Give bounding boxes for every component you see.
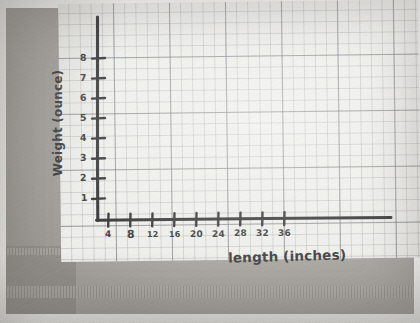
- y-tick-label-7: 7: [80, 72, 87, 83]
- y-tick-label-1: 1: [81, 192, 88, 203]
- y-axis-title: Weight (ounce): [51, 57, 65, 189]
- y-tick-label-2: 2: [80, 172, 87, 183]
- y-axis-title-wrapper: Weight (ounce): [48, 60, 70, 192]
- x-tick-label-12: 12: [147, 230, 159, 239]
- x-axis-title: length (inches): [228, 246, 347, 265]
- photograph: 8 7 6 5 4 3 2 1 4 8 12 16 20 24 28 32 36…: [0, 0, 420, 323]
- x-tick-label-4: 4: [105, 229, 112, 239]
- x-tick-label-8: 8: [127, 228, 135, 241]
- y-tick-label-6: 6: [80, 92, 87, 103]
- x-tick-label-28: 28: [234, 228, 247, 238]
- x-tick-label-32: 32: [256, 228, 269, 238]
- x-axis-line: [97, 217, 392, 220]
- x-tick-label-24: 24: [212, 229, 225, 239]
- x-tick-label-20: 20: [190, 229, 203, 239]
- x-tick-label-36: 36: [278, 228, 291, 238]
- y-tick-label-5: 5: [80, 112, 87, 123]
- x-tick-label-16: 16: [169, 230, 181, 239]
- y-tick-label-8: 8: [80, 52, 87, 63]
- y-tick-label-3: 3: [80, 152, 87, 163]
- y-tick-label-4: 4: [80, 132, 87, 143]
